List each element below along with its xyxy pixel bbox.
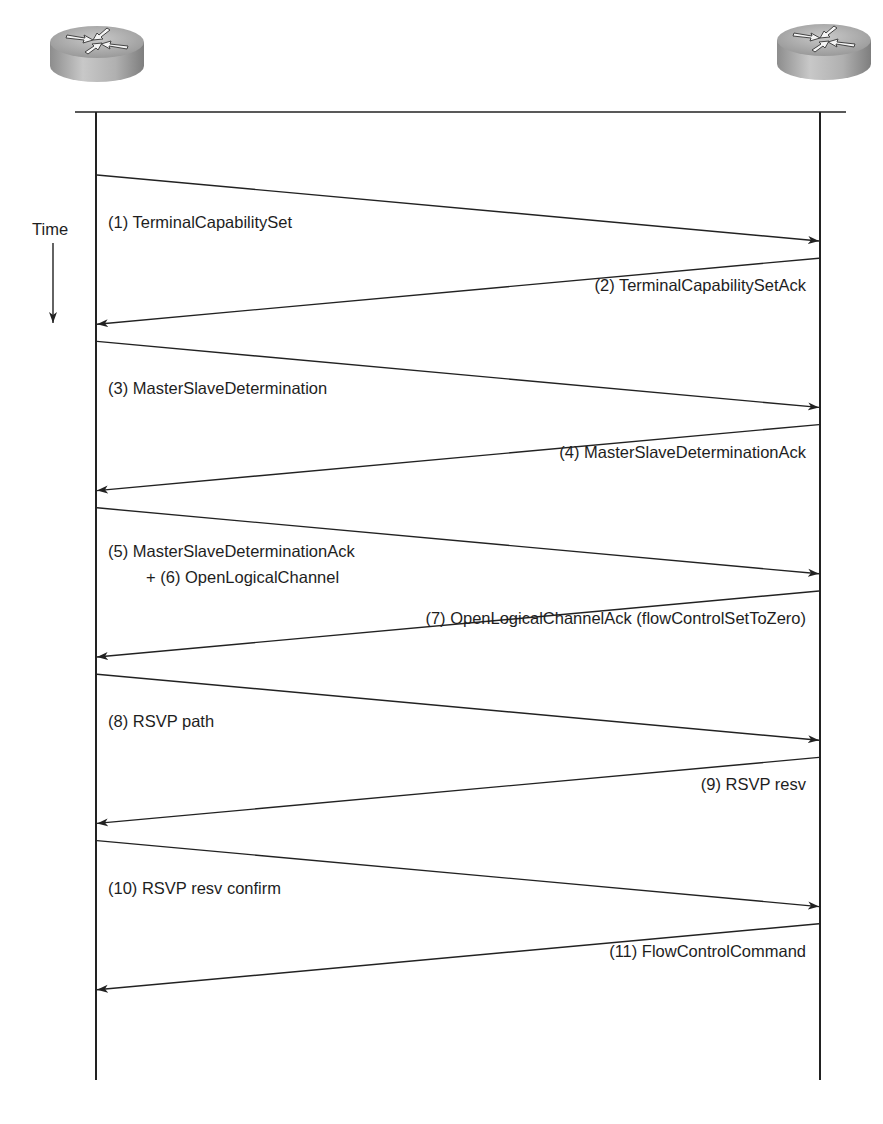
message-label-6: (7) OpenLogicalChannelAck (flowControlSe… [425, 609, 806, 627]
message-label-3: (3) MasterSlaveDetermination [108, 379, 327, 397]
message-label-5-line2: + (6) OpenLogicalChannel [146, 568, 339, 586]
left-router-icon [50, 26, 144, 82]
message-label-1: (1) TerminalCapabilitySet [108, 213, 292, 231]
message-label-8: (9) RSVP resv [701, 775, 807, 793]
message-label-7: (8) RSVP path [108, 712, 214, 730]
message-arrow-3 [97, 341, 819, 407]
message-label-5: (5) MasterSlaveDeterminationAck [108, 542, 355, 560]
message-label-4: (4) MasterSlaveDeterminationAck [559, 443, 806, 461]
message-label-2: (2) TerminalCapabilitySetAck [594, 276, 806, 294]
message-arrow-7 [97, 674, 819, 740]
message-arrow-5 [97, 508, 819, 574]
message-arrow-1 [97, 175, 819, 241]
right-router-icon [777, 24, 871, 80]
message-arrow-9 [97, 841, 819, 907]
time-label: Time [32, 220, 68, 238]
sequence-diagram: Time (1) TerminalCapabilitySet(2) Termin… [0, 0, 883, 1124]
message-label-9: (10) RSVP resv confirm [108, 879, 281, 897]
message-label-10: (11) FlowControlCommand [609, 942, 806, 960]
